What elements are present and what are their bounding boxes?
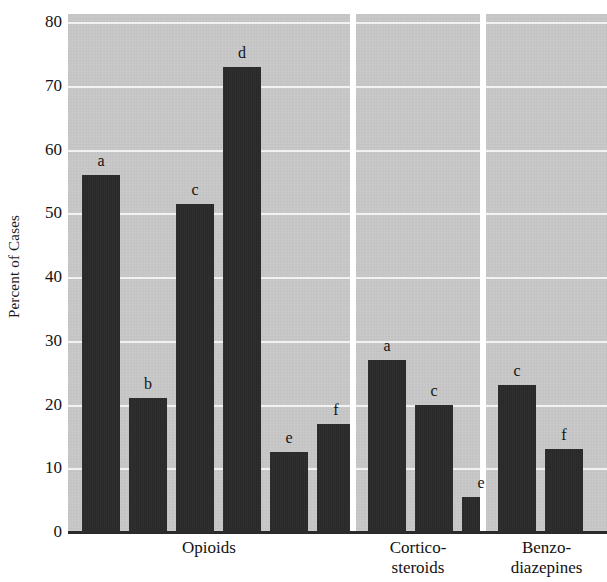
plot-panel-opioids — [68, 14, 350, 532]
bar-benzodiazepines-c — [498, 385, 536, 532]
bar-label-benzodiazepines-c: c — [513, 363, 520, 379]
y-axis-tick-20: 20 — [28, 395, 62, 415]
bar-opioids-a — [82, 175, 120, 532]
bar-opioids-f — [317, 424, 350, 532]
y-axis-tick-80: 80 — [28, 12, 62, 32]
bar-corticosteroids-c — [415, 405, 453, 533]
y-axis-tick-labels: 01020304050607080 — [22, 0, 62, 582]
gridline-30 — [486, 341, 607, 343]
gridline-60 — [68, 150, 350, 152]
plot-panel-corticosteroids — [356, 14, 480, 532]
category-label-opioids: Opioids — [68, 538, 350, 558]
bar-opioids-c — [176, 204, 214, 532]
bar-label-corticosteroids-a: a — [383, 338, 390, 354]
y-axis-tick-40: 40 — [28, 267, 62, 287]
y-axis-tick-10: 10 — [28, 458, 62, 478]
gridline-40 — [356, 277, 480, 279]
y-axis-tick-30: 30 — [28, 331, 62, 351]
category-label-benzodiazepines-line1: Benzo- — [486, 538, 607, 558]
bar-label-benzodiazepines-f: f — [561, 427, 566, 443]
category-label-opioids-line1: Opioids — [68, 538, 350, 558]
gridline-70 — [68, 86, 350, 88]
category-label-corticosteroids-line1: Cortico- — [356, 538, 480, 558]
bar-opioids-b — [129, 398, 167, 532]
category-label-benzodiazepines-line2: diazepines — [486, 558, 607, 578]
y-axis-tick-50: 50 — [28, 203, 62, 223]
bar-label-opioids-a: a — [97, 153, 104, 169]
plot-panel-benzodiazepines — [486, 14, 607, 532]
gridline-80 — [486, 22, 607, 24]
y-axis-tick-0: 0 — [28, 522, 62, 542]
gridline-80 — [356, 22, 480, 24]
bar-label-opioids-e: e — [285, 430, 292, 446]
category-label-corticosteroids-line2: steroids — [356, 558, 480, 578]
y-axis-tick-70: 70 — [28, 76, 62, 96]
bar-label-opioids-f: f — [333, 402, 338, 418]
bar-corticosteroids-a — [368, 360, 406, 532]
y-axis-title-text: Percent of Cases — [7, 214, 24, 317]
bar-label-opioids-b: b — [144, 376, 152, 392]
gridline-60 — [356, 150, 480, 152]
gridline-50 — [486, 213, 607, 215]
bar-opioids-e — [270, 452, 308, 532]
gridline-70 — [486, 86, 607, 88]
category-label-corticosteroids: Cortico- steroids — [356, 538, 480, 578]
y-axis-tick-60: 60 — [28, 140, 62, 160]
bar-label-opioids-d: d — [238, 45, 246, 61]
gridline-80 — [68, 22, 350, 24]
bar-label-corticosteroids-e: e — [477, 475, 484, 491]
gridline-70 — [356, 86, 480, 88]
bar-chart-figure: Percent of Cases 01020304050607080 Opioi… — [0, 0, 607, 582]
bar-opioids-d — [223, 67, 261, 532]
bar-benzodiazepines-f — [545, 449, 583, 532]
gridline-30 — [356, 341, 480, 343]
gridline-40 — [486, 277, 607, 279]
bar-corticosteroids-e — [462, 497, 480, 532]
gridline-60 — [486, 150, 607, 152]
bar-label-opioids-c: c — [191, 182, 198, 198]
gridline-50 — [356, 213, 480, 215]
category-label-benzodiazepines: Benzo- diazepines — [486, 538, 607, 578]
bar-label-corticosteroids-c: c — [430, 383, 437, 399]
